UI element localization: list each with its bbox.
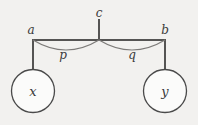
- diagram-container: c a b p q x y: [0, 0, 198, 125]
- node-label-b: b: [161, 23, 169, 37]
- arc-label-p: p: [59, 48, 67, 62]
- leaf-label-x: x: [29, 84, 37, 99]
- node-label-a: a: [27, 23, 34, 37]
- tree-diagram-canvas: c a b p q x y: [0, 0, 198, 125]
- node-label-c: c: [96, 6, 103, 20]
- leaf-label-y: y: [160, 84, 169, 99]
- arc-label-q: q: [128, 48, 136, 62]
